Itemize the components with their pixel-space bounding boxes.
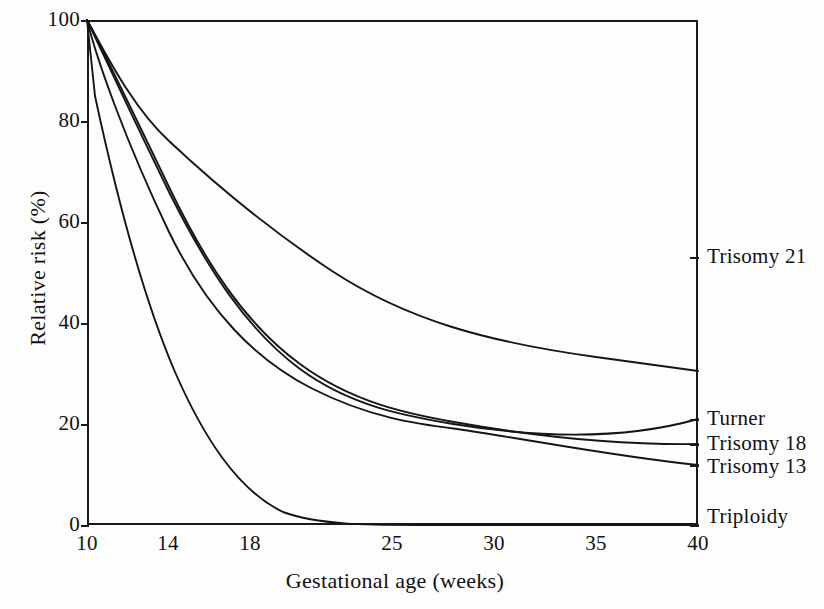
- series-label-turner: Turner: [707, 408, 765, 429]
- chart-figure: 100 80 60 40 20 0 Relative risk (%) Tris…: [0, 0, 824, 609]
- x-tick-label-14: 14: [138, 532, 198, 554]
- x-tick-label-40: 40: [668, 532, 728, 554]
- series-tick-triploidy: [690, 525, 699, 527]
- series-label-trisomy-21: Trisomy 21: [707, 246, 807, 267]
- x-tick-label-10: 10: [57, 532, 117, 554]
- x-axis-title: Gestational age (weeks): [0, 568, 790, 594]
- series-tick-trisomy-13: [690, 465, 699, 467]
- series-tick-turner: [690, 419, 699, 421]
- series-line-triploidy: [87, 20, 698, 525]
- x-tick-label-35: 35: [566, 532, 626, 554]
- y-tick-label-100: 100: [38, 9, 80, 30]
- y-tick-mark-0: [81, 525, 89, 527]
- series-line-trisomy-21: [87, 20, 698, 371]
- series-line-trisomy-13: [87, 20, 698, 465]
- series-label-trisomy-18: Trisomy 18: [707, 433, 807, 454]
- x-tick-label-18: 18: [220, 532, 280, 554]
- series-label-trisomy-13: Trisomy 13: [707, 456, 807, 477]
- series-label-triploidy: Triploidy: [707, 506, 788, 527]
- x-tick-label-30: 30: [464, 532, 524, 554]
- series-tick-trisomy-18: [690, 444, 699, 446]
- series-tick-trisomy-21: [690, 257, 699, 259]
- series-line-turner: [87, 20, 698, 435]
- y-tick-label-80: 80: [38, 110, 80, 131]
- y-axis-title: Relative risk (%): [25, 138, 51, 398]
- y-tick-label-20: 20: [38, 413, 80, 434]
- x-tick-label-25: 25: [362, 532, 422, 554]
- curve-layer: [87, 20, 698, 525]
